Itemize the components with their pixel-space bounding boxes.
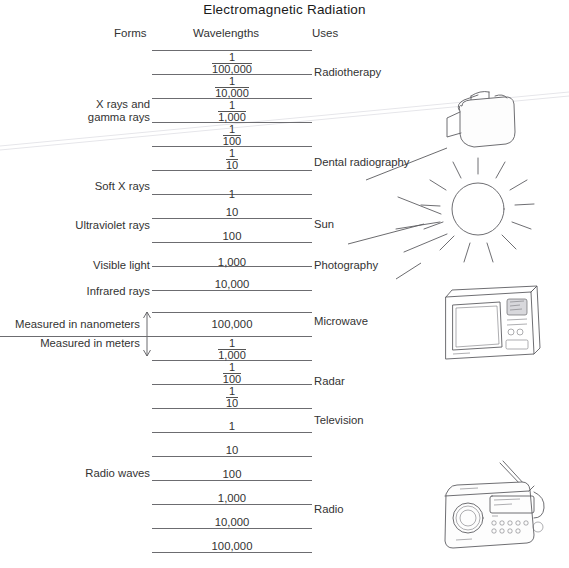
leader-sun [348, 224, 424, 244]
fraction-denominator: 100,000 [212, 63, 252, 75]
fraction: 1 100 [223, 362, 241, 385]
scale-rule [152, 432, 312, 433]
diagram-sheet: Electromagnetic Radiation Forms Waveleng… [0, 0, 569, 568]
use-label-radiotherapy: Radiotherapy [314, 66, 381, 78]
fraction-denominator: 10,000 [215, 87, 249, 99]
fraction-denominator: 10 [226, 159, 238, 171]
use-label-sun: Sun [314, 218, 334, 230]
wavelength-cell: 1 10 [172, 386, 292, 409]
fraction-numerator: 1 [226, 148, 238, 159]
scale-rule [152, 552, 312, 553]
fraction-denominator: 100 [223, 135, 241, 147]
wavelength-cell: 1 100 [172, 362, 292, 385]
wavelength-cell: 1 10,000 [172, 76, 292, 99]
scale-rule [152, 218, 312, 219]
form-label-x-rays-line1: X rays and [20, 98, 150, 110]
fraction: 1 10,000 [215, 76, 249, 99]
fraction-numerator: 1 [218, 338, 246, 349]
fraction: 1 10 [226, 148, 238, 171]
form-label-x-rays-line2: gamma rays [20, 111, 150, 123]
fraction-numerator: 1 [218, 100, 246, 111]
wavelength-cell: 10 [172, 206, 292, 218]
fraction-numerator: 1 [223, 362, 241, 373]
fraction-denominator: 10 [226, 397, 238, 409]
use-label-photography: Photography [314, 259, 378, 271]
fraction-numerator: 1 [215, 76, 249, 87]
fraction-denominator: 1,000 [218, 111, 246, 123]
sun-illustration [396, 158, 534, 262]
wavelength-cell: 10,000 [172, 278, 292, 290]
scale-rule [152, 504, 312, 505]
wavelength-cell: 1,000 [172, 256, 292, 268]
fraction-numerator: 1 [226, 386, 238, 397]
scale-rule [152, 242, 312, 243]
wavelength-cell: 1 [172, 420, 292, 432]
wavelength-cell: 100 [172, 230, 292, 242]
form-label-visible-light: Visible light [20, 259, 150, 271]
unit-scale-arrow [144, 312, 151, 356]
wavelength-cell: 1 [172, 188, 292, 200]
column-header-wavelengths: Wavelengths [193, 27, 259, 39]
leader-photography [396, 263, 421, 279]
wavelength-cell: 1 100,000 [172, 52, 292, 75]
wavelength-cell: 1 1,000 [172, 100, 292, 123]
wavelength-cell: 1,000 [172, 492, 292, 504]
wavelength-cell: 100 [172, 468, 292, 480]
fraction-denominator: 1,000 [218, 349, 246, 361]
use-label-television: Television [314, 414, 364, 426]
fraction-numerator: 1 [212, 52, 252, 63]
wavelength-cell: 1 1,000 [172, 338, 292, 361]
x-ray-machine-illustration [447, 92, 515, 148]
wavelength-cell: 100,000 [172, 540, 292, 552]
microwave-oven-illustration [446, 286, 540, 359]
scale-rule [152, 480, 312, 481]
portable-radio-illustration [445, 461, 544, 548]
fraction: 1 1,000 [218, 100, 246, 123]
fraction: 1 10 [226, 386, 238, 409]
wavelength-cell: 1 100 [172, 124, 292, 147]
scale-rule [152, 456, 312, 457]
scale-rule [152, 312, 312, 313]
wavelength-cell: 1 10 [172, 148, 292, 171]
use-label-dental-radiography: Dental radiography [314, 156, 409, 168]
wavelength-cell: 100,000 [172, 318, 292, 330]
form-label-infrared-rays: Infrared rays [20, 285, 150, 297]
fraction: 1 100,000 [212, 52, 252, 75]
scale-rule [152, 528, 312, 529]
fraction: 1 1,000 [218, 338, 246, 361]
fraction-numerator: 1 [223, 124, 241, 135]
scale-rule [152, 290, 312, 291]
fraction: 1 100 [223, 124, 241, 147]
page-title: Electromagnetic Radiation [0, 2, 569, 17]
column-header-uses: Uses [312, 27, 338, 39]
form-label-radio-waves: Radio waves [20, 467, 150, 479]
form-label-ultraviolet-rays: Ultraviolet rays [20, 219, 150, 231]
wavelength-cell: 10,000 [172, 516, 292, 528]
column-header-forms: Forms [114, 27, 147, 39]
unit-note-meters: Measured in meters [0, 337, 140, 349]
use-label-microwave: Microwave [314, 315, 368, 327]
use-label-radio: Radio [314, 503, 344, 515]
form-label-soft-x-rays: Soft X rays [20, 180, 150, 192]
wavelength-cell: 10 [172, 444, 292, 456]
use-label-radar: Radar [314, 375, 345, 387]
unit-note-nanometers: Measured in nanometers [0, 318, 140, 330]
fraction-denominator: 100 [223, 373, 241, 385]
